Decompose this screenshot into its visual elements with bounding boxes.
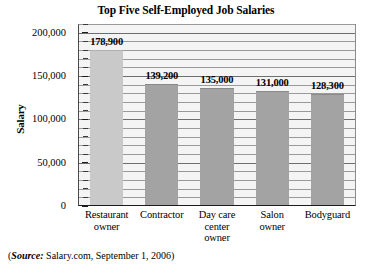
bar[interactable] <box>256 91 289 205</box>
category-label-line: owner <box>239 221 305 233</box>
bar-value-label: 139,200 <box>145 70 178 82</box>
bar-value-label: 178,900 <box>90 36 123 48</box>
bar[interactable] <box>90 50 123 205</box>
y-tickmark <box>82 206 88 207</box>
bar-group[interactable]: 135,000 <box>200 24 233 205</box>
chart-title: Top Five Self-Employed Job Salaries <box>0 4 372 17</box>
chart-figure: Top Five Self-Employed Job Salaries Sala… <box>0 0 372 273</box>
y-tick-label: 200,000 <box>32 27 66 38</box>
y-tick-label: 100,000 <box>32 113 66 124</box>
bar-value-label: 128,300 <box>311 80 344 92</box>
bar-series: 178,900139,200135,000131,000128,300 <box>79 24 355 205</box>
category-label-line: owner <box>73 221 139 233</box>
bar-value-label: 131,000 <box>256 77 289 89</box>
bar[interactable] <box>311 94 344 205</box>
source-label: Source: <box>11 250 43 261</box>
bar[interactable] <box>200 88 233 205</box>
bar[interactable] <box>145 84 178 205</box>
category-label-line: owner <box>184 232 250 244</box>
bar-value-label: 135,000 <box>201 74 234 86</box>
y-tick-label: 50,000 <box>37 157 66 168</box>
category-label: Bodyguard <box>294 209 360 221</box>
source-note: (Source: Salary.com, September 1, 2006) <box>8 250 174 262</box>
bar-group[interactable]: 178,900 <box>90 24 123 205</box>
bar-group[interactable]: 128,300 <box>311 24 344 205</box>
source-text: Salary.com, September 1, 2006) <box>44 250 175 261</box>
bar-group[interactable]: 139,200 <box>145 24 178 205</box>
y-tick-label: 0 <box>61 200 66 211</box>
y-tick-label: 150,000 <box>32 70 66 81</box>
category-label-line: Bodyguard <box>294 209 360 221</box>
bar-group[interactable]: 131,000 <box>256 24 289 205</box>
y-axis-tick-labels: 050,000100,000150,000200,000 <box>0 24 72 206</box>
